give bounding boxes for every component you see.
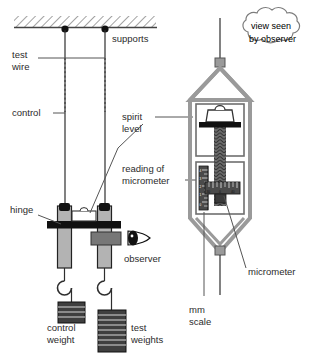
label-hinge: hinge [10, 204, 33, 215]
label-mm-scale-line2: scale [189, 316, 211, 327]
label-test-weights-line2: weights [130, 334, 163, 345]
control-weight-stack [58, 302, 85, 323]
label-control-weight-line1: control [47, 322, 76, 333]
detail-bottom-connector [215, 246, 225, 255]
test-weight-group [98, 268, 127, 352]
ceiling-support [14, 16, 157, 28]
label-control: control [12, 107, 41, 118]
label-test-wire-line2: wire [11, 61, 29, 72]
control-bar [58, 206, 72, 268]
micrometer-block [91, 232, 121, 245]
label-supports: supports [112, 33, 149, 44]
hinge-assembly [47, 203, 121, 268]
label-micrometer: micrometer [248, 266, 296, 277]
thimble-num-30: 30 [207, 190, 211, 194]
spirit-level-bar [199, 122, 241, 128]
label-control-weight-line2: weight [46, 334, 75, 345]
test-weight-stack [98, 310, 126, 352]
callout-view-seen: view seen by observer [243, 8, 300, 44]
test-hook [98, 281, 112, 295]
test-bar-cap [99, 203, 110, 211]
label-test-wire-line1: test [12, 49, 28, 60]
label-spirit-level-line2: level [122, 123, 142, 134]
callout-line1: view seen [251, 21, 291, 31]
label-mm-scale-line1: mm [189, 304, 205, 315]
control-bar-cap [59, 203, 70, 211]
callout-line2: by observer [249, 34, 296, 44]
label-spirit-level-line1: spirit [122, 111, 142, 122]
control-weight-group [58, 268, 86, 323]
thimble-num-0: 0 [219, 190, 221, 194]
label-reading-line2: micrometer [122, 175, 170, 186]
physics-diagram: supports test wire control hinge [0, 0, 318, 361]
spirit-level-small [72, 208, 96, 221]
observer-icon [128, 231, 150, 246]
label-test-weights-line1: test [131, 322, 147, 333]
control-hook [58, 281, 72, 295]
label-reading-line1: reading of [122, 163, 165, 174]
hinge-bar [47, 221, 121, 229]
label-observer: observer [124, 253, 161, 264]
diagram-canvas: supports test wire control hinge [0, 0, 318, 361]
thimble-num-40: 40 [231, 190, 235, 194]
